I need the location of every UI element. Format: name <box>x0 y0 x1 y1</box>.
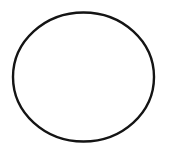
background <box>0 0 171 156</box>
drawing-canvas <box>0 0 171 156</box>
